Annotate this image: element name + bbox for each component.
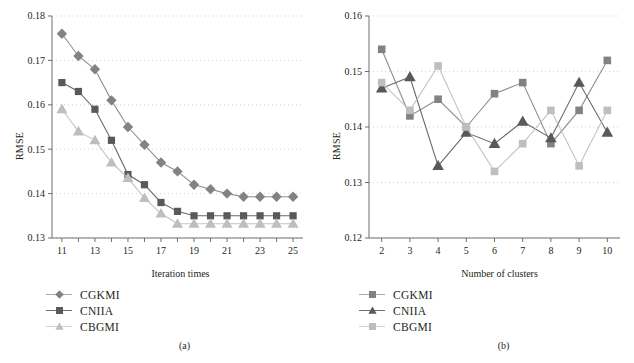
data-point-CNIIA (108, 137, 115, 144)
legend-label: CBGMI (393, 321, 432, 333)
legend-marker-diamond-icon (46, 288, 72, 301)
legend-label: CBGMI (80, 321, 119, 333)
x-tick-label: 25 (288, 245, 298, 256)
data-point-CNIIA (489, 138, 501, 148)
data-point-CGKMI (106, 95, 116, 105)
legend-item[interactable]: CNIIA (46, 303, 120, 318)
data-point-CBGMI (56, 104, 67, 114)
data-point-CGKMI (491, 90, 499, 98)
data-point-CBGMI (288, 218, 299, 228)
x-tick-label: 7 (520, 245, 525, 256)
y-tick-label: 0.16 (345, 10, 363, 21)
figure-root: 0.130.140.150.160.170.181113151719212325… (0, 0, 634, 363)
data-point-CNIIA (157, 199, 164, 206)
legend-a: CGKMI CNIIA CBGMI (46, 287, 120, 335)
data-point-CBGMI (575, 162, 583, 170)
data-point-CGKMI (255, 192, 265, 202)
data-point-CBGMI (222, 218, 233, 228)
x-tick-label: 5 (464, 245, 469, 256)
data-point-CBGMI (189, 218, 200, 228)
data-point-CGKMI (519, 79, 527, 87)
data-point-CNIIA (573, 77, 585, 87)
data-point-CBGMI (172, 218, 183, 228)
legend-label: CNIIA (80, 305, 113, 317)
legend-marker-square-icon (46, 304, 72, 317)
data-point-CNIIA (517, 116, 529, 126)
data-point-CBGMI (519, 140, 527, 148)
legend-label: CGKMI (80, 289, 120, 301)
x-tick-label: 15 (123, 245, 133, 256)
x-tick-label: 13 (90, 245, 100, 256)
data-point-CBGMI (547, 107, 555, 115)
y-tick-label: 0.13 (345, 177, 363, 188)
panel-a: 0.130.140.150.160.170.181113151719212325… (0, 0, 317, 363)
y-tick-label: 0.14 (28, 188, 46, 199)
x-axis-label-a: Iteration times (0, 268, 339, 279)
legend-item[interactable]: CBGMI (359, 319, 433, 334)
data-point-CBGMI (205, 218, 216, 228)
x-tick-label: 10 (602, 245, 612, 256)
data-point-CNIIA (141, 181, 148, 188)
y-tick-label: 0.17 (28, 55, 46, 66)
data-point-CNIIA (174, 208, 181, 215)
chart-svg-a: 0.130.140.150.160.170.181113151719212325 (0, 0, 317, 272)
data-point-CGKMI (575, 107, 583, 115)
x-tick-label: 19 (189, 245, 199, 256)
legend-item[interactable]: CNIIA (359, 303, 433, 318)
x-tick-label: 8 (548, 245, 553, 256)
y-tick-label: 0.12 (345, 232, 363, 243)
data-point-CBGMI (255, 218, 266, 228)
data-point-CBGMI (406, 107, 414, 115)
x-tick-label: 21 (222, 245, 232, 256)
x-tick-label: 3 (407, 245, 412, 256)
legend-b: CGKMI CNIIA CBGMI (359, 287, 433, 335)
legend-item[interactable]: CBGMI (46, 319, 120, 334)
y-tick-label: 0.18 (28, 10, 46, 21)
y-axis-label-a: RMSE (14, 132, 25, 160)
data-point-CGKMI (57, 29, 67, 39)
data-point-CBGMI (238, 218, 249, 228)
plot-area-a: 0.130.140.150.160.170.181113151719212325 (0, 0, 317, 272)
data-point-CBGMI (106, 157, 117, 167)
data-point-CNIIA (404, 71, 416, 81)
legend-marker-square-icon (359, 288, 385, 301)
legend-marker-triangle-icon (46, 320, 72, 333)
data-point-CGKMI (604, 57, 612, 65)
data-point-CNIIA (601, 127, 613, 137)
data-point-CGKMI (238, 192, 248, 202)
subplot-caption-a: (a) (0, 340, 343, 351)
data-point-CGKMI (378, 46, 386, 54)
plot-area-b: 0.120.130.140.150.162345678910 (317, 0, 634, 272)
x-tick-label: 6 (492, 245, 497, 256)
y-tick-label: 0.15 (28, 144, 46, 155)
subplot-caption-b: (b) (317, 340, 634, 351)
x-tick-label: 9 (577, 245, 582, 256)
data-point-CNIIA (58, 79, 65, 86)
x-tick-label: 17 (156, 245, 166, 256)
data-point-CBGMI (73, 126, 84, 136)
data-point-CNIIA (91, 106, 98, 113)
y-tick-label: 0.13 (28, 232, 46, 243)
x-axis-label-b: Number of clusters (317, 268, 634, 279)
legend-label: CNIIA (393, 305, 426, 317)
x-tick-label: 2 (379, 245, 384, 256)
legend-marker-triangle-icon (359, 304, 385, 317)
data-point-CBGMI (434, 62, 442, 70)
data-point-CGKMI (205, 184, 215, 194)
legend-item[interactable]: CGKMI (359, 287, 433, 302)
data-point-CGKMI (434, 95, 442, 103)
data-point-CNIIA (75, 88, 82, 95)
legend-label: CGKMI (393, 289, 433, 301)
x-tick-label: 23 (255, 245, 265, 256)
legend-item[interactable]: CGKMI (46, 287, 120, 302)
panel-b: 0.120.130.140.150.162345678910 RMSE Numb… (317, 0, 634, 363)
data-point-CBGMI (491, 168, 499, 176)
x-tick-label: 11 (57, 245, 67, 256)
data-point-CBGMI (462, 123, 470, 131)
chart-svg-b: 0.120.130.140.150.162345678910 (317, 0, 634, 272)
x-tick-label: 4 (436, 245, 441, 256)
series-line-CBGMI (382, 66, 608, 171)
data-point-CGKMI (271, 192, 281, 202)
data-point-CBGMI (604, 107, 612, 115)
data-point-CGKMI (222, 188, 232, 198)
